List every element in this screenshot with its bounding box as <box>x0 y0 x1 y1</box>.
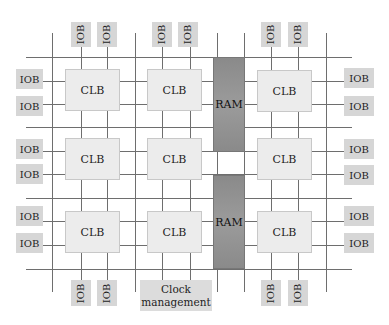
iob-right: IOB <box>344 206 374 226</box>
clb-r2c2: CLB <box>147 138 202 180</box>
iob-right: IOB <box>344 139 374 159</box>
routing-line-v <box>52 33 53 292</box>
routing-line-h <box>26 57 352 58</box>
iob-right: IOB <box>344 68 374 88</box>
clb-r2c3: CLB <box>257 138 312 180</box>
clb-r1c3: CLB <box>257 70 312 112</box>
connector-line <box>43 245 65 246</box>
connector-line <box>120 151 147 152</box>
connector-line <box>43 221 65 222</box>
ram-block-2: RAM <box>213 175 245 269</box>
routing-line-v <box>326 33 327 292</box>
connector-line <box>43 104 65 105</box>
iob-left: IOB <box>16 206 43 226</box>
connector-line <box>120 245 147 246</box>
iob-top: IOB <box>288 22 308 47</box>
iob-top: IOB <box>261 22 281 47</box>
iob-left: IOB <box>16 139 43 159</box>
clb-r3c1: CLB <box>65 211 120 253</box>
connector-line <box>120 174 147 175</box>
routing-line-h <box>26 269 352 270</box>
clb-r3c2: CLB <box>147 211 202 253</box>
connector-line <box>312 221 344 222</box>
iob-top: IOB <box>97 22 117 47</box>
iob-right: IOB <box>344 233 374 253</box>
iob-bottom: IOB <box>97 280 117 306</box>
iob-bottom: IOB <box>71 280 91 306</box>
clb-r2c1: CLB <box>65 138 120 180</box>
clock-management-block: Clock management <box>140 280 212 311</box>
connector-line <box>43 151 65 152</box>
fpga-architecture-diagram: IOB IOB IOB IOB IOB IOB IOB IOB IOB IOB … <box>0 0 389 325</box>
connector-line <box>43 81 65 82</box>
connector-line <box>120 221 147 222</box>
iob-right: IOB <box>344 96 374 116</box>
connector-line <box>120 81 147 82</box>
iob-right: IOB <box>344 165 374 185</box>
connector-line <box>312 81 344 82</box>
connector-line <box>312 245 344 246</box>
iob-bottom: IOB <box>261 280 281 306</box>
iob-left: IOB <box>16 164 43 184</box>
connector-line <box>120 104 147 105</box>
iob-left: IOB <box>16 96 43 116</box>
clb-r1c2: CLB <box>147 69 202 111</box>
clb-r3c3: CLB <box>257 211 312 253</box>
routing-line-h <box>26 198 352 199</box>
connector-line <box>312 174 344 175</box>
iob-top: IOB <box>178 22 198 47</box>
iob-top: IOB <box>152 22 172 47</box>
routing-line-v <box>135 33 136 292</box>
connector-line <box>43 174 65 175</box>
iob-left: IOB <box>16 69 43 89</box>
connector-line <box>312 104 344 105</box>
iob-left: IOB <box>16 233 43 253</box>
clb-r1c1: CLB <box>65 69 120 111</box>
ram-block-1: RAM <box>213 57 245 152</box>
connector-line <box>312 151 344 152</box>
iob-bottom: IOB <box>288 280 308 306</box>
iob-top: IOB <box>71 22 91 47</box>
routing-line-h <box>26 127 352 128</box>
